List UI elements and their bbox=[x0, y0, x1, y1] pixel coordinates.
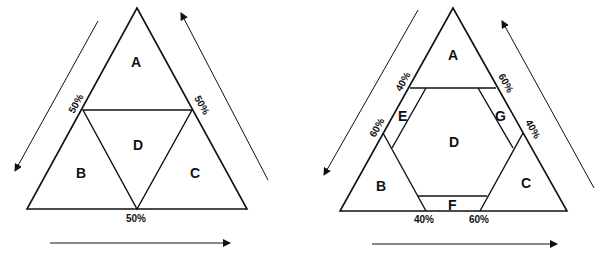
right-b-cut-line bbox=[383, 133, 426, 211]
right-labels: A B C D E F G 40% 60% 60% 40% 40% 60% bbox=[367, 47, 542, 225]
right-arrow-down-left bbox=[324, 10, 418, 175]
right-region-f: F bbox=[448, 197, 457, 213]
left-region-c: C bbox=[190, 165, 200, 181]
right-region-b: B bbox=[376, 178, 386, 194]
right-outer-triangle bbox=[340, 8, 567, 211]
left-arrow-up-left bbox=[181, 13, 268, 180]
left-region-a: A bbox=[131, 54, 141, 70]
left-labels: A B C D 50% 50% 50% bbox=[66, 54, 211, 224]
left-region-b: B bbox=[76, 165, 86, 181]
left-edge-label-left: 50% bbox=[66, 92, 85, 115]
right-edge-label-left-upper: 40% bbox=[393, 70, 412, 93]
left-arrow-down-left bbox=[15, 21, 98, 171]
left-edge-label-bottom: 50% bbox=[126, 213, 146, 224]
right-region-c: C bbox=[521, 175, 531, 191]
right-region-a: A bbox=[448, 47, 458, 63]
right-edge-label-bottom-left: 40% bbox=[414, 214, 434, 225]
right-ternary-diagram bbox=[324, 8, 594, 244]
left-outer-triangle bbox=[27, 8, 247, 209]
left-region-d: D bbox=[133, 137, 143, 153]
right-c-cut-line bbox=[480, 133, 523, 211]
right-edge-label-bottom-right: 60% bbox=[469, 214, 489, 225]
right-region-e: E bbox=[398, 108, 407, 124]
right-region-d: D bbox=[449, 134, 459, 150]
right-arrow-up-left bbox=[502, 21, 594, 188]
diagram-canvas: A B C D 50% 50% 50% A B C D E F G 40% 60… bbox=[0, 0, 600, 258]
left-inner-triangle bbox=[83, 110, 192, 209]
left-ternary-diagram bbox=[15, 8, 268, 243]
right-region-g: G bbox=[495, 108, 506, 124]
